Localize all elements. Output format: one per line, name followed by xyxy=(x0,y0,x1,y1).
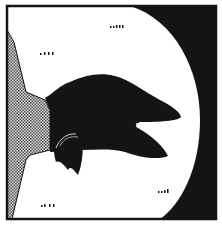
star-icon xyxy=(40,53,42,55)
star-icon xyxy=(110,26,112,28)
star-icon xyxy=(167,189,169,193)
star-icon xyxy=(53,204,55,207)
star-icon xyxy=(44,204,46,207)
star-icon xyxy=(164,190,166,193)
star-icon xyxy=(113,26,115,28)
star-icon xyxy=(119,25,121,28)
star-icon xyxy=(122,25,124,28)
star-icon xyxy=(52,52,54,55)
star-icon xyxy=(116,25,118,28)
star-icon xyxy=(48,52,50,55)
star-icon xyxy=(44,52,46,55)
panel-illustration xyxy=(0,0,222,226)
star-icon xyxy=(161,191,163,193)
comic-panel: Single comic panel: black crow head silh… xyxy=(0,0,222,226)
star-icon xyxy=(49,204,51,207)
star-icon xyxy=(41,205,43,207)
star-icon xyxy=(158,191,160,193)
